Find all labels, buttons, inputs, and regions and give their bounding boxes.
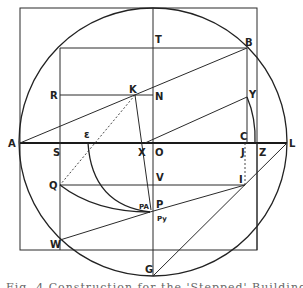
figure-caption: Fig. 4 Construction for the 'Stepped' Bu… [6,281,303,288]
label-P: P [156,199,163,210]
label-T: T [155,34,162,45]
line-GL [153,143,287,276]
dotted-KQ [60,95,135,185]
label-J: J [240,147,245,158]
label-Py: Py [157,215,167,223]
label-V: V [156,172,164,183]
label-K: K [129,84,138,95]
line-WP [60,212,150,240]
geometric-diagram: T B R K N Y A S ɛ X O C J Z L Q V I PA P… [0,0,303,288]
line-XY [145,97,247,143]
label-C: C [240,131,247,142]
label-O: O [155,147,164,158]
label-L: L [289,138,296,149]
outer-square [20,8,257,250]
label-Y: Y [248,89,257,100]
label-W: W [50,239,61,250]
label-S: S [53,147,60,158]
label-PA: PA [139,203,149,211]
label-N: N [155,91,163,102]
label-R: R [50,90,58,101]
label-Q: Q [49,180,58,191]
arc-QP [60,185,150,212]
label-A: A [8,138,16,149]
label-e: ɛ [84,129,90,140]
arc-YC [247,97,255,143]
label-G: G [145,264,153,275]
label-I: I [239,174,243,185]
label-B: B [245,37,253,48]
label-X: X [138,147,146,158]
label-Z: Z [259,147,266,158]
